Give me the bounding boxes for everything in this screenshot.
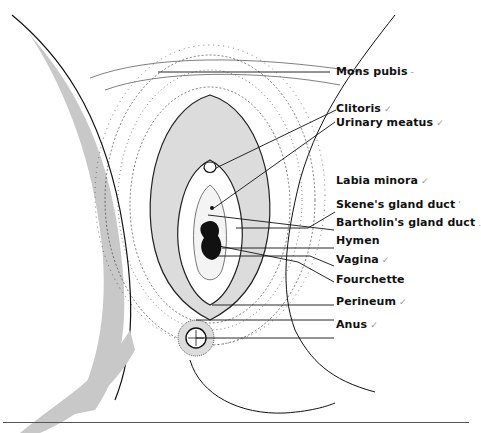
label-anus: Anus✓ [336,319,378,331]
clitoris [204,162,216,173]
label-text: Hymen [336,234,380,247]
label-text: Vagina [336,253,379,266]
label-skenes-gland-duct: Skene's gland duct' [336,199,461,211]
label-bartholins-gland-duct: Bartholin's gland duct. [336,217,481,229]
label-text: Bartholin's gland duct [336,216,475,229]
check-mark-icon: ✓ [370,320,378,330]
check-mark-icon: ✓ [421,176,429,186]
label-text: Perineum [336,295,396,308]
label-perineum: Perineum✓ [336,296,407,308]
check-mark-icon: - [411,67,414,77]
label-labia-minora: Labia minora✓ [336,175,429,187]
label-text: Clitoris [336,102,381,115]
label-text: Fourchette [336,273,405,286]
label-fourchette: Fourchette [336,274,408,286]
urinary-meatus [210,206,214,210]
buttock-curve [190,360,335,413]
check-mark-icon: ✓ [399,297,407,307]
check-mark-icon: ✓ [436,118,444,128]
label-text: Skene's gland duct [336,198,455,211]
label-mons-pubis: Mons pubis- [336,66,414,78]
label-text: Urinary meatus [336,116,433,129]
label-urinary-meatus: Urinary meatus✓ [336,117,444,129]
check-mark-icon: ✓ [384,104,392,114]
label-vagina: Vagina✓ [336,254,390,266]
vaginal-opening [200,221,221,260]
label-hymen: Hymen [336,235,383,247]
check-mark-icon: ✓ [382,255,390,265]
label-text: Mons pubis [336,65,408,78]
label-clitoris: Clitoris✓ [336,103,392,115]
check-mark-icon: ' [458,200,461,210]
label-text: Anus [336,318,367,331]
label-text: Labia minora [336,174,418,187]
bottom-divider [3,422,469,423]
